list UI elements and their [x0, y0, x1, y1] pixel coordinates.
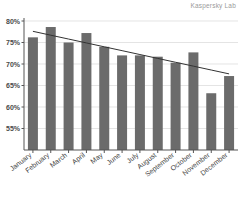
svg-text:65%: 65%	[6, 82, 21, 89]
svg-text:75%: 75%	[6, 39, 21, 46]
svg-text:70%: 70%	[6, 61, 21, 68]
trendline	[33, 31, 229, 74]
svg-text:June: June	[105, 151, 121, 166]
y-axis-ticks: 80%75%70%65%60%55%	[6, 18, 24, 133]
svg-text:55%: 55%	[6, 125, 21, 132]
bar-chart: 80%75%70%65%60%55% JanuaryFebruaryMarchA…	[0, 0, 240, 200]
svg-text:80%: 80%	[6, 18, 21, 25]
svg-text:April: April	[71, 151, 87, 166]
svg-text:May: May	[89, 151, 105, 166]
svg-text:60%: 60%	[6, 104, 21, 111]
gridlines	[24, 21, 238, 129]
chart-container: Kaspersky Lab 80%75%70%65%60%55% January…	[0, 0, 240, 200]
x-axis-ticks: JanuaryFebruaryMarchAprilMayJuneJulyAugu…	[9, 150, 230, 179]
bars	[28, 27, 234, 150]
svg-text:March: March	[49, 151, 69, 169]
